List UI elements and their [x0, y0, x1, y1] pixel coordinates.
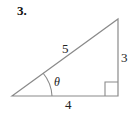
- angle-theta-label: θ: [54, 75, 60, 89]
- triangle: [12, 19, 118, 96]
- triangle-outline: [12, 19, 118, 96]
- right-triangle-figure: 5 3 4 θ: [0, 0, 137, 117]
- hypotenuse-label: 5: [62, 41, 69, 56]
- right-angle-marker: [105, 82, 118, 96]
- opposite-side-label: 3: [121, 50, 128, 65]
- angle-arc: [43, 73, 52, 96]
- adjacent-side-label: 4: [65, 97, 72, 112]
